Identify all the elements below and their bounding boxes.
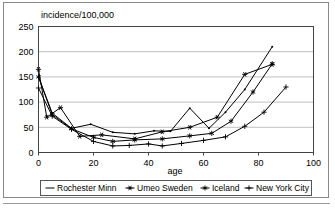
data-point-marker [127,143,132,148]
y-axis-tick-labels: 050100150200250 [18,22,33,158]
data-point-marker [244,89,246,91]
y-tick-label: 100 [18,97,33,107]
y-tick-label: 0 [28,148,33,158]
series-line [39,47,273,134]
y-axis-label: incidence/100,000 [41,10,114,20]
x-axis-label: age [167,166,182,176]
gridlines [39,27,314,128]
line-chart: 050100150200250 020406080100 incidence/1… [0,0,335,213]
data-point-marker [146,141,151,146]
x-tick-label: 0 [36,158,41,168]
chart-legend: Rochester MinnUmeo SwedenIcelandNew York… [41,181,312,196]
data-point-marker [179,141,184,146]
x-tick-label: 80 [253,158,263,168]
y-tick-label: 250 [18,22,33,32]
data-point-marker [225,111,227,113]
data-point-marker [91,139,96,144]
x-tick-label: 100 [306,158,321,168]
data-point-marker [160,143,165,148]
data-point-marker [223,134,228,139]
series-iceland [36,61,274,144]
data-point-marker [189,107,191,109]
legend-label: Rochester Minn [57,183,117,193]
data-point-marker [160,130,165,135]
y-tick-label: 200 [18,47,33,57]
legend-item-rochester-minn[interactable]: Rochester Minn [46,183,117,193]
data-series-group [36,46,289,149]
data-point-marker [242,72,247,77]
legend-label: New York City [256,183,310,193]
data-point-marker [208,127,210,129]
data-point-marker [187,125,192,130]
x-tick-label: 40 [143,158,153,168]
y-tick-label: 50 [23,123,33,133]
data-point-marker [36,85,41,90]
legend-label: Umeo Sweden [137,183,193,193]
data-point-marker [112,131,114,133]
x-tick-label: 20 [88,158,98,168]
data-point-marker [153,130,155,132]
data-point-marker [271,46,273,48]
x-tick-label: 60 [198,158,208,168]
data-point-marker [90,123,92,125]
figure-container: 050100150200250 020406080100 incidence/1… [0,0,335,213]
legend-label: Iceland [212,183,240,193]
data-point-marker [99,133,104,138]
data-point-marker [201,138,206,143]
y-tick-label: 150 [18,72,33,82]
data-point-marker [134,133,136,135]
data-point-marker [110,143,115,148]
series-rochester-minn [38,46,274,135]
